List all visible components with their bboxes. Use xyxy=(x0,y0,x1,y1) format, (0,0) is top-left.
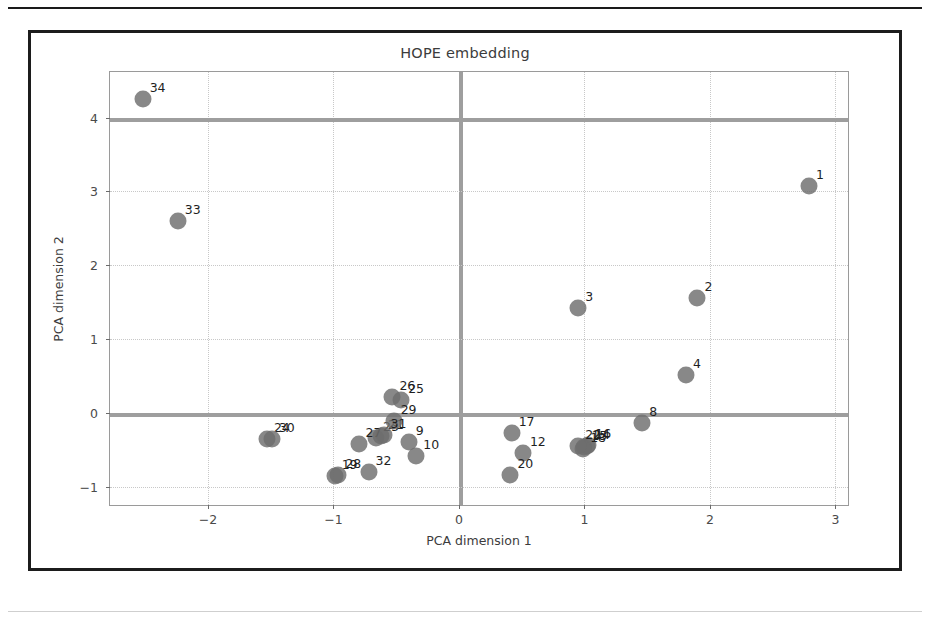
y-tick-label: 3 xyxy=(90,184,98,199)
x-tick-label: −1 xyxy=(324,512,342,527)
x-gridline xyxy=(333,72,334,505)
scatter-point xyxy=(514,444,531,461)
y-tick-mark xyxy=(106,487,110,488)
x-tick-mark xyxy=(459,505,460,509)
y-tick-mark xyxy=(106,118,110,119)
y-tick-label: −1 xyxy=(80,479,98,494)
scatter-point-label: 3 xyxy=(585,289,593,304)
x-tick-label: 2 xyxy=(706,512,714,527)
scatter-point-label: 1 xyxy=(816,167,824,182)
y-tick-mark xyxy=(106,265,110,266)
y-gridline xyxy=(110,487,848,488)
scatter-point-label: 9 xyxy=(416,423,424,438)
scatter-point xyxy=(503,424,520,441)
scatter-point-label: 25 xyxy=(408,381,424,396)
scatter-point xyxy=(634,415,651,432)
plot-wrapper: HOPE embedding −2−10123−101234PCA dimens… xyxy=(31,33,899,568)
scatter-point xyxy=(134,90,151,107)
y-gridline xyxy=(110,191,848,192)
figure-frame: HOPE embedding −2−10123−101234PCA dimens… xyxy=(28,30,902,571)
y-axis-title: PCA dimension 2 xyxy=(51,236,66,341)
y-tick-mark xyxy=(106,413,110,414)
scatter-point xyxy=(169,213,186,230)
scatter-point xyxy=(502,466,519,483)
scatter-point xyxy=(570,437,587,454)
document-page: HOPE embedding −2−10123−101234PCA dimens… xyxy=(0,0,930,619)
y-tick-mark xyxy=(106,339,110,340)
scatter-point-label: 12 xyxy=(530,434,546,449)
x-tick-label: 3 xyxy=(831,512,839,527)
scatter-point-label: 30 xyxy=(279,420,295,435)
x-tick-mark xyxy=(333,505,334,509)
y-tick-label: 0 xyxy=(90,405,98,420)
y-gridline xyxy=(110,339,848,340)
x-gridline xyxy=(208,72,209,505)
page-top-rule xyxy=(8,7,922,9)
x-tick-label: 0 xyxy=(455,512,463,527)
y-gridline xyxy=(110,265,848,266)
chart-title: HOPE embedding xyxy=(31,45,899,61)
scatter-point-label: 16 xyxy=(595,426,611,441)
y-tick-mark xyxy=(106,191,110,192)
page-bottom-rule xyxy=(8,611,922,612)
x-tick-mark xyxy=(208,505,209,509)
x-gridline xyxy=(459,72,463,505)
scatter-point xyxy=(384,389,401,406)
scatter-point-label: 34 xyxy=(150,80,166,95)
x-gridline xyxy=(710,72,711,505)
scatter-point xyxy=(408,447,425,464)
scatter-point xyxy=(375,426,392,443)
scatter-point-label: 4 xyxy=(693,356,701,371)
scatter-point xyxy=(263,431,280,448)
y-gridline xyxy=(110,413,848,417)
x-tick-mark xyxy=(710,505,711,509)
x-axis-title: PCA dimension 1 xyxy=(426,533,531,548)
y-gridline xyxy=(110,118,848,122)
scatter-plot-axes: −2−10123−101234PCA dimension 1PCA dimens… xyxy=(109,71,849,506)
scatter-point xyxy=(570,300,587,317)
x-tick-label: 1 xyxy=(580,512,588,527)
y-tick-label: 1 xyxy=(90,332,98,347)
scatter-point-label: 10 xyxy=(423,437,439,452)
x-tick-mark xyxy=(584,505,585,509)
y-tick-label: 2 xyxy=(90,258,98,273)
scatter-point-label: 32 xyxy=(376,453,392,468)
y-tick-label: 4 xyxy=(90,110,98,125)
scatter-point xyxy=(678,367,695,384)
scatter-point-label: 14 xyxy=(594,427,610,442)
scatter-point-label: 28 xyxy=(345,456,361,471)
x-gridline xyxy=(835,72,836,505)
x-tick-mark xyxy=(835,505,836,509)
scatter-point-label: 33 xyxy=(185,202,201,217)
scatter-point xyxy=(801,177,818,194)
scatter-point-label: 8 xyxy=(649,404,657,419)
scatter-point-label: 2 xyxy=(704,279,712,294)
scatter-point xyxy=(360,463,377,480)
scatter-point xyxy=(330,467,347,484)
scatter-point xyxy=(689,289,706,306)
scatter-point xyxy=(350,435,367,452)
x-tick-label: −2 xyxy=(199,512,217,527)
